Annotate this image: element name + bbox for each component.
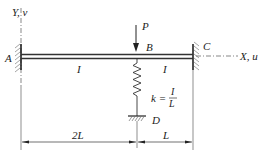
load-arrow-p <box>133 25 139 52</box>
spring-k-label: k = <box>151 93 166 104</box>
dimension-label-l: L <box>163 130 169 141</box>
fixed-support-a <box>15 44 21 72</box>
spring <box>133 59 141 116</box>
spring-k-denominator: L <box>169 99 175 109</box>
node-a-label: A <box>5 53 12 64</box>
dimension-label-2l: 2L <box>72 130 84 141</box>
segment-ab-inertia: I <box>77 64 81 75</box>
beam-diagram: Y, v X, u A B C D P I I k = I L 2L L <box>0 0 259 167</box>
spring-k-numerator: I <box>171 87 174 97</box>
x-axis-label: X, u <box>240 51 258 62</box>
node-c-label: C <box>203 41 210 52</box>
load-label-p: P <box>142 21 149 32</box>
node-d-label: D <box>152 115 160 126</box>
beam <box>21 55 193 59</box>
segment-bc-inertia: I <box>163 64 167 75</box>
ground-support-d <box>128 116 146 148</box>
beam-diagram-svg <box>0 0 259 167</box>
node-b-label: B <box>146 42 153 53</box>
y-axis-label: Y, v <box>12 7 28 18</box>
